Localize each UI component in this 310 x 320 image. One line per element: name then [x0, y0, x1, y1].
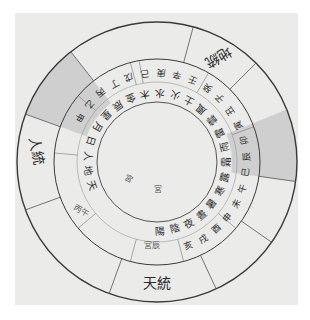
ring-character: 子 [213, 91, 226, 104]
shaded-sector [227, 110, 297, 182]
ring-character: 人 [82, 151, 94, 162]
ring-character: 天 [85, 179, 99, 192]
ring-character: 戌 [196, 231, 209, 245]
ring-character: 辰 [241, 152, 252, 162]
ring-character: 申 [220, 210, 234, 224]
ring-character: 酉 [209, 222, 222, 235]
divider-line [241, 221, 271, 242]
ring-character: 地 [82, 165, 95, 176]
ring-character: 霜 [221, 157, 232, 167]
ring-character: 晝 [193, 207, 208, 223]
ring-text: 天地人日月星辰金木水火土風雲雷雨霜露寒暑晝夜陰陽甲乙丙丁戊己庚辛壬癸子丑寅卯辰巳… [73, 67, 252, 252]
ring-character: 辰 [110, 98, 125, 113]
ring-character: 巳 [240, 168, 251, 178]
ring-character: 風 [194, 102, 209, 117]
ring-character: 丁 [108, 77, 121, 90]
divider-line [230, 63, 256, 89]
ring-character: 寒 [212, 184, 227, 198]
ring-character: 庚 [156, 67, 166, 78]
small-label: 丙午 [72, 202, 91, 219]
ring-character: 陰 [168, 221, 181, 235]
ring-character: 亥 [182, 239, 194, 252]
divider-line [109, 259, 122, 294]
ring-character: 雷 [212, 126, 226, 140]
ring-character: 土 [181, 94, 195, 109]
ring-character: 戊 [123, 71, 135, 84]
ring-character: 己 [140, 68, 150, 79]
cosmological-wheel: 天地人日月星辰金木水火土風雲雷雨霜露寒暑晝夜陰陽甲乙丙丁戊己庚辛壬癸子丑寅卯辰巳… [0, 0, 310, 320]
ring-character: 金 [124, 91, 138, 106]
ring-character: 雨 [218, 141, 231, 153]
ring-character: 午 [235, 182, 248, 194]
divider-line [201, 255, 217, 289]
outer-label: 人統 [26, 136, 47, 166]
ring-character: 火 [169, 89, 182, 102]
divider-line [184, 27, 194, 63]
ring-character: 日 [84, 135, 97, 148]
divider-line [25, 197, 60, 210]
ring-character: 夜 [181, 215, 195, 230]
outer-label: 天統 [143, 275, 171, 291]
ring-character: 水 [155, 87, 165, 98]
ring-character: 壬 [187, 74, 199, 87]
ring-character: 陽 [155, 225, 165, 236]
small-labels: 宮辰丙午宮宮 [72, 172, 162, 250]
ring-character: 辛 [172, 69, 183, 82]
ring-character: 露 [218, 171, 231, 183]
ring-character: 暑 [204, 197, 219, 212]
ring-character: 木 [139, 88, 151, 101]
divider-line [54, 153, 77, 155]
small-label: 宮辰 [144, 240, 160, 250]
ring-character: 未 [229, 197, 243, 210]
inner-circle [97, 102, 217, 222]
outer-label: 地統 [202, 43, 234, 71]
divider-line [130, 239, 136, 261]
small-label: 宮 [154, 184, 162, 194]
ring-character: 丑 [224, 104, 237, 117]
ring-character: 雲 [204, 113, 219, 128]
small-label: 宮 [123, 172, 135, 185]
